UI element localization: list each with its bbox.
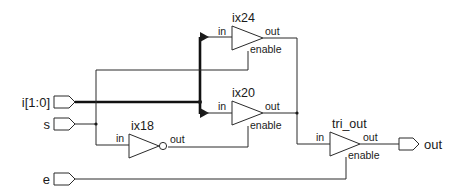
junction-s bbox=[94, 122, 97, 125]
pin-label-in: in bbox=[218, 100, 226, 112]
port-label-s: s bbox=[44, 117, 51, 132]
instance-label: tri_out bbox=[332, 117, 367, 131]
instance-label: ix24 bbox=[232, 11, 255, 25]
port-i[interactable]: i[1:0] bbox=[22, 95, 75, 110]
wire-e-to-tri-out-enable bbox=[75, 157, 346, 179]
port-s[interactable]: s bbox=[44, 117, 76, 132]
pin-label-in: in bbox=[218, 25, 226, 37]
port-out[interactable]: out bbox=[399, 137, 442, 152]
input-port-icon bbox=[54, 96, 75, 108]
pin-label-enable: enable bbox=[250, 119, 282, 131]
pin-label-enable: enable bbox=[348, 149, 380, 161]
junction-bus bbox=[198, 100, 202, 104]
pin-label-in: in bbox=[316, 131, 324, 143]
port-e[interactable]: e bbox=[43, 172, 75, 187]
pin-label-out: out bbox=[265, 100, 280, 112]
pin-label-out: out bbox=[363, 131, 378, 143]
input-port-icon bbox=[54, 173, 75, 185]
pin-label-out: out bbox=[265, 25, 280, 37]
schematic-canvas: i[1:0] s e out ix24 in out enable ix20 i… bbox=[0, 0, 463, 193]
pin-label-out: out bbox=[170, 133, 185, 145]
instance-label: ix20 bbox=[232, 86, 255, 100]
wire-s-to-ix24-enable bbox=[96, 51, 248, 70]
port-label-i: i[1:0] bbox=[22, 95, 50, 110]
pin-label-enable: enable bbox=[250, 43, 282, 55]
pin-label-in: in bbox=[116, 132, 124, 144]
port-label-out: out bbox=[424, 137, 442, 152]
instance-label: ix18 bbox=[131, 119, 154, 133]
junction-out bbox=[295, 111, 298, 114]
inverter-icon bbox=[129, 134, 159, 158]
instance-ix18[interactable]: ix18 in bbox=[116, 119, 167, 158]
port-label-e: e bbox=[43, 172, 50, 187]
inversion-bubble-icon bbox=[159, 142, 166, 149]
output-port-icon bbox=[399, 138, 419, 150]
input-port-icon bbox=[54, 118, 75, 130]
